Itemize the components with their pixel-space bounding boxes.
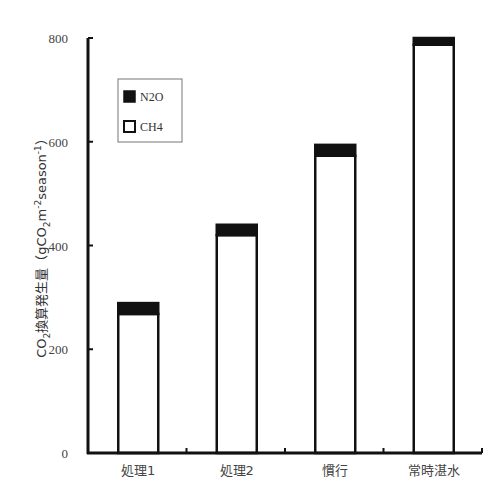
- bar-segment-ch4: [118, 314, 158, 453]
- bar-segment-n2o: [118, 303, 158, 314]
- bar-segment-n2o: [414, 38, 454, 45]
- x-category-label: 慣行: [322, 463, 348, 478]
- bar-segment-n2o: [315, 145, 355, 156]
- legend-swatch-n2o: [124, 91, 135, 102]
- y-tick-label: 800: [49, 31, 69, 46]
- bar-segment-ch4: [414, 45, 454, 453]
- y-tick-label: 0: [62, 446, 69, 461]
- legend: N2O CH4: [118, 79, 182, 142]
- x-category-label: 処理2: [220, 463, 254, 478]
- bar-segment-n2o: [217, 225, 257, 235]
- x-axis: 処理1処理2慣行常時湛水: [87, 448, 482, 478]
- y-tick-label: 600: [49, 135, 69, 150]
- y-tick-label: 200: [49, 342, 69, 357]
- y-axis: 0200400600800: [49, 31, 94, 461]
- legend-label-n2o: N2O: [140, 90, 164, 104]
- legend-label-ch4: CH4: [140, 120, 163, 134]
- stacked-bar-chart: 0200400600800 処理1処理2慣行常時湛水 N2O CH4 CO2換算…: [0, 0, 492, 500]
- bar-segment-ch4: [315, 156, 355, 453]
- y-tick-label: 400: [49, 239, 69, 254]
- x-category-label: 処理1: [121, 463, 155, 478]
- x-category-label: 常時湛水: [408, 463, 460, 478]
- legend-swatch-ch4: [124, 121, 135, 132]
- bar-segment-ch4: [217, 235, 257, 453]
